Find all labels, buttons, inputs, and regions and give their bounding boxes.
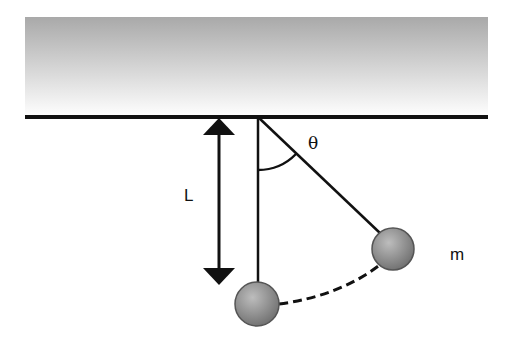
ceiling (25, 17, 488, 117)
swing-path (279, 264, 381, 304)
bob-displaced (372, 228, 414, 270)
length-label: L (184, 187, 193, 204)
bob-rest (235, 282, 279, 326)
angle-arc (258, 154, 296, 170)
angle-label: θ (308, 135, 318, 152)
length-arrow-down-head (203, 268, 235, 285)
pendulum-diagram (0, 0, 512, 344)
mass-label: m (450, 246, 464, 263)
length-arrow-up-head (203, 118, 235, 135)
angled-string (258, 117, 381, 234)
